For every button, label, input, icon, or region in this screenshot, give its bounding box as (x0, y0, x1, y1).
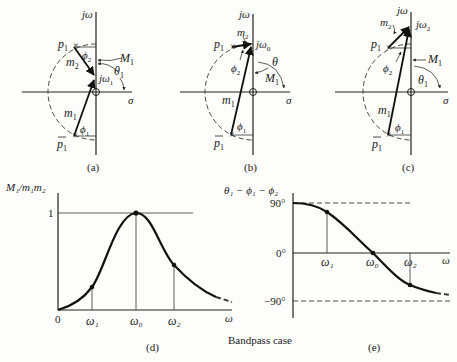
svg-text:90°: 90° (270, 197, 285, 209)
panel-e-label: (e) (368, 341, 381, 354)
svg-text:ω₁: ω₁ (86, 314, 99, 328)
svg-text:m1: m1 (222, 93, 235, 109)
svg-text:θ1: θ1 (114, 64, 124, 80)
panel-d-label: (d) (146, 341, 159, 354)
panel-c-pole-zero-diagram: × × jω σ p1 p1 m2 m1 ϕ2 ϕ1 M1 θ1 jω2 (c) (335, 4, 449, 174)
panel-a-label: (a) (87, 161, 100, 174)
svg-text:p1: p1 (56, 137, 67, 153)
svg-text:p1: p1 (213, 136, 224, 152)
svg-text:ϕ1: ϕ1 (395, 121, 405, 136)
svg-text:jω: jω (395, 4, 408, 16)
svg-text:p1: p1 (371, 137, 382, 153)
svg-text:σ: σ (443, 94, 449, 106)
panel-c-label: (c) (402, 161, 415, 174)
svg-text:0°: 0° (276, 247, 286, 259)
svg-text:ω: ω (442, 254, 450, 266)
figure-caption: Bandpass case (228, 334, 292, 346)
y-axis-label: θ₁ − ϕ₁ − ϕ₂ (224, 184, 278, 196)
svg-text:m2: m2 (237, 26, 249, 41)
svg-text:ω₀: ω₀ (130, 314, 143, 328)
svg-text:ω₂: ω₂ (168, 314, 181, 328)
pole-upper-cross-icon: × (73, 40, 79, 51)
svg-text:ω: ω (225, 312, 233, 324)
svg-text:jω0: jω0 (254, 38, 271, 53)
svg-text:M1: M1 (264, 71, 279, 87)
svg-text:ϕ1: ϕ1 (237, 120, 247, 135)
svg-text:p1: p1 (213, 37, 224, 53)
panel-e-phase-plot: θ₁ − ϕ₁ − ϕ₂ 90° 0° −90° ω₁ ω₀ ω₂ ω (e) (224, 184, 452, 354)
svg-text:jω: jω (237, 8, 250, 20)
svg-text:jω1: jω1 (97, 72, 114, 87)
svg-text:×: × (229, 129, 235, 140)
panel-b-pole-zero-diagram: × × jω σ p1 p1 m2 m1 ϕ2 ϕ1 M1 θ jω0 (b) (180, 8, 292, 174)
svg-text:p1: p1 (57, 37, 68, 53)
svg-text:p1: p1 (370, 37, 381, 53)
svg-text:θ: θ (272, 55, 278, 69)
svg-text:ϕ2: ϕ2 (231, 62, 241, 77)
svg-text:jω: jω (80, 8, 93, 20)
phase-curve (293, 203, 436, 293)
pole-lower-cross-icon: × (72, 130, 78, 141)
arrow-M1 (98, 58, 122, 61)
svg-text:×: × (230, 41, 236, 52)
svg-text:M1: M1 (119, 51, 134, 67)
svg-text:×: × (386, 42, 392, 53)
svg-text:ϕ2: ϕ2 (383, 62, 393, 77)
svg-text:M1: M1 (427, 52, 442, 68)
panel-d-magnitude-plot: M₁/m₁m₂ 1 0 ω₁ ω₀ ω₂ ω (d) (5, 181, 233, 354)
svg-text:ω₀: ω₀ (366, 255, 379, 269)
svg-text:−90°: −90° (264, 295, 286, 307)
svg-text:0: 0 (55, 313, 61, 325)
svg-text:m1: m1 (64, 106, 77, 122)
svg-text:m1: m1 (378, 103, 391, 119)
svg-text:σ: σ (286, 94, 292, 106)
svg-text:ω₁: ω₁ (321, 255, 334, 269)
svg-text:θ1: θ1 (418, 73, 428, 89)
svg-text:ω₂: ω₂ (404, 255, 417, 269)
y-axis-label: M₁/m₁m₂ (5, 181, 46, 193)
bandpass-figure: × × jω σ p1 p1 m2 m1 ϕ2 ϕ1 M1 θ1 jω1 (a)… (0, 0, 457, 362)
magnitude-curve (58, 213, 216, 310)
svg-text:m2: m2 (66, 55, 79, 71)
svg-text:σ: σ (128, 94, 134, 106)
svg-text:×: × (386, 129, 392, 140)
svg-text:1: 1 (48, 207, 54, 219)
svg-text:m2: m2 (380, 16, 392, 31)
panel-a-pole-zero-diagram: × × jω σ p1 p1 m2 m1 ϕ2 ϕ1 M1 θ1 jω1 (a) (22, 8, 134, 174)
svg-text:jω2: jω2 (414, 18, 431, 33)
panel-b-label: (b) (244, 161, 257, 174)
